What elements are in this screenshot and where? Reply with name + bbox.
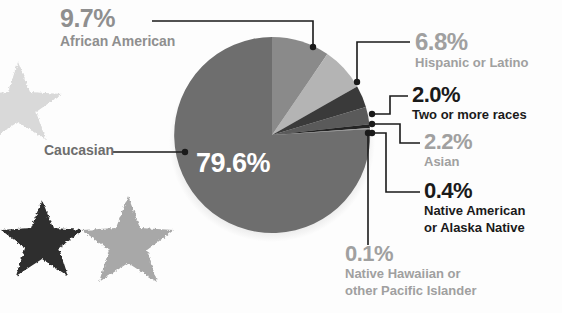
leader-two-or-more <box>372 96 408 114</box>
value-native-american: 0.4% <box>424 180 525 202</box>
name-hispanic: Hispanic or Latino <box>415 56 528 71</box>
value-hispanic: 6.8% <box>415 30 528 54</box>
name-native-hawaiian-line1: Native Hawaiian or <box>345 267 477 282</box>
label-native-hawaiian: 0.1% Native Hawaiian or other Pacific Is… <box>345 243 477 298</box>
label-african-american: 9.7% African American <box>60 6 175 50</box>
name-native-american-line2: or Alaska Native <box>424 221 525 236</box>
label-hispanic: 6.8% Hispanic or Latino <box>415 30 528 71</box>
leader-hispanic <box>357 42 410 82</box>
name-african-american: African American <box>60 34 175 50</box>
leader-native-american <box>372 133 420 192</box>
label-asian: 2.2% Asian <box>424 131 472 170</box>
value-asian: 2.2% <box>424 131 472 153</box>
name-native-hawaiian-line2: other Pacific Islander <box>345 284 477 299</box>
label-native-american: 0.4% Native American or Alaska Native <box>424 180 525 235</box>
name-two-or-more-races: Two or more races <box>412 108 527 123</box>
leader-dot-caucasian <box>182 149 188 155</box>
pie-center-value: 79.6% <box>196 148 270 179</box>
name-asian: Asian <box>424 155 472 170</box>
value-two-or-more-races: 2.0% <box>412 84 527 106</box>
leader-dot-african-american <box>310 44 316 50</box>
value-african-american: 9.7% <box>60 6 175 31</box>
label-two-or-more-races: 2.0% Two or more races <box>412 84 527 123</box>
name-native-american-line1: Native American <box>424 204 525 219</box>
leader-dot-native-hawaiian <box>365 130 371 136</box>
name-caucasian: Caucasian <box>44 143 114 159</box>
leader-dot-hispanic <box>354 79 360 85</box>
leader-african-american <box>152 21 313 47</box>
value-native-hawaiian: 0.1% <box>345 243 477 265</box>
leader-dot-two-or-more <box>369 111 375 117</box>
label-caucasian: Caucasian <box>44 143 114 159</box>
leader-dot-asian <box>369 121 375 127</box>
pie-chart-infographic: 79.6% 9.7% African American Caucasian 6.… <box>0 0 562 313</box>
